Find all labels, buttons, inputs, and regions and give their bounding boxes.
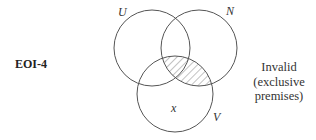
circle-u — [114, 10, 190, 86]
circle-label-u: U — [118, 5, 128, 19]
verdict-line-3: premises) — [248, 89, 310, 104]
verdict-text: Invalid (exclusive premises) — [248, 60, 310, 104]
x-mark: x — [170, 101, 177, 115]
circle-label-n: N — [225, 4, 235, 18]
verdict-line-2: (exclusive — [248, 75, 310, 90]
circle-label-v: V — [213, 110, 222, 124]
verdict-line-1: Invalid — [248, 60, 310, 75]
